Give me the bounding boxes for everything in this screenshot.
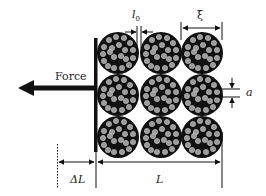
fiber-bundle — [97, 32, 139, 74]
fiber-bundle — [140, 32, 182, 74]
xi-label: ξ — [197, 9, 203, 22]
l-label: L — [155, 173, 163, 186]
fiber-bundle — [97, 74, 139, 116]
a-label: a — [246, 86, 253, 99]
fiber-bundle — [181, 32, 223, 74]
fiber-bundle — [140, 116, 182, 158]
fiber-bundle — [181, 74, 223, 116]
fiber-bundle-grid — [97, 32, 223, 158]
l0-label: l0 — [132, 8, 140, 23]
compression-plate — [94, 38, 98, 152]
fiber-bundle — [97, 116, 139, 158]
delta-l-label: ΔL — [69, 173, 85, 186]
fiber-bundle — [181, 116, 223, 158]
fiber-bundle — [140, 74, 182, 116]
fiber-bundle-diagram: Force l0 ξ a ΔL L — [0, 0, 266, 196]
force-label: Force — [55, 70, 87, 83]
